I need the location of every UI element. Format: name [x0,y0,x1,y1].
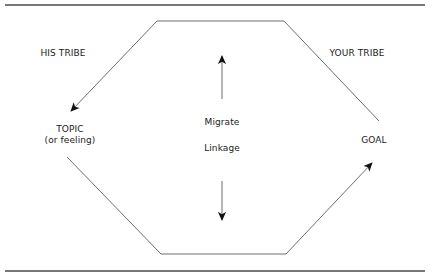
arrow-to-goal [286,163,372,254]
tribe-migration-diagram: HIS TRIBE YOUR TRIBE TOPIC (or feeling) … [0,0,434,276]
arrow-to-topic [71,21,157,111]
lower-left-edge [67,157,161,254]
his-tribe-label: HIS TRIBE [40,48,85,59]
migrate-label: Migrate [205,117,240,128]
your-tribe-label: YOUR TRIBE [329,48,384,59]
upper-right-edge [284,21,379,121]
topic-sublabel: (or feeling) [45,135,96,146]
linkage-label: Linkage [204,143,240,154]
topic-label: TOPIC [56,124,83,135]
goal-label: GOAL [361,135,386,146]
